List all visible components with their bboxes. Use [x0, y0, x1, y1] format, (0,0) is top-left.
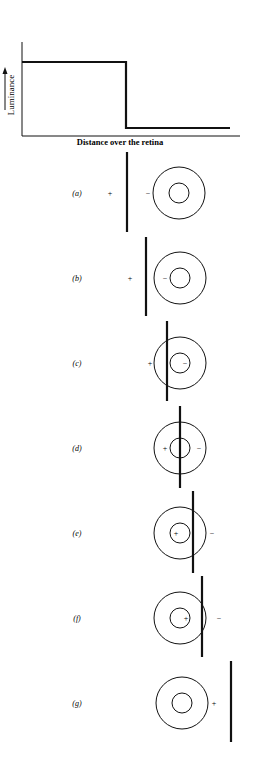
minus-sign: −: [163, 274, 168, 283]
y-axis-label: Luminance: [6, 75, 16, 115]
panel-label: (c): [73, 359, 82, 368]
panel-label: (e): [73, 529, 82, 538]
receptive-field-center: [169, 183, 189, 203]
luminance-profile: [22, 62, 230, 128]
plus-sign: +: [184, 614, 189, 623]
panel-label: (b): [72, 274, 82, 283]
receptive-field-panels: (a)+−(b)+−(c)+−(d)+−(e)+−(f)+−(g)+: [72, 152, 231, 742]
figure-canvas: Luminance Distance over the retina (a)+−…: [0, 0, 253, 779]
plus-sign: +: [148, 359, 153, 368]
minus-sign: −: [210, 529, 215, 538]
minus-sign: −: [146, 189, 151, 198]
receptive-field-surround: [154, 507, 206, 559]
minus-sign: −: [183, 359, 188, 368]
receptive-field-center: [172, 693, 192, 713]
plus-sign: +: [128, 274, 133, 283]
minus-sign: −: [197, 444, 202, 453]
plus-sign: +: [108, 189, 113, 198]
receptive-field-center: [170, 268, 190, 288]
panel-g: (g)+: [72, 661, 231, 742]
receptive-field-surround: [156, 677, 208, 729]
panel-a: (a)+−: [72, 152, 205, 232]
receptive-field-surround: [154, 337, 206, 389]
panel-label: (f): [73, 614, 81, 623]
panel-e: (e)+−: [73, 491, 215, 573]
luminance-graph: Luminance Distance over the retina: [3, 42, 241, 147]
panel-f: (f)+−: [73, 576, 222, 657]
panel-label: (a): [72, 189, 82, 198]
panel-c: (c)+−: [73, 321, 206, 401]
plus-sign: +: [212, 699, 217, 708]
x-axis-label: Distance over the retina: [77, 137, 164, 147]
plus-sign: +: [174, 529, 179, 538]
minus-sign: −: [217, 614, 222, 623]
plus-sign: +: [163, 444, 168, 453]
receptive-field-surround: [153, 167, 205, 219]
receptive-field-surround: [154, 592, 206, 644]
panel-d: (d)+−: [72, 406, 206, 488]
panel-b: (b)+−: [72, 237, 206, 316]
panel-label: (d): [72, 444, 82, 453]
panel-label: (g): [72, 699, 82, 708]
